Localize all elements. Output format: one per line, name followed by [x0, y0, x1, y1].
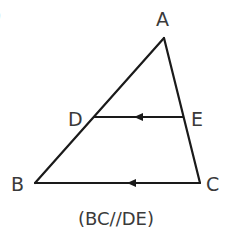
parallel-arrow-bc-icon [127, 179, 136, 187]
vertex-label-b: B [11, 173, 24, 195]
parallel-caption: (BC//DE) [78, 208, 154, 229]
segment-ab [35, 38, 164, 183]
triangle-diagram: ) A D E B C (BC//DE) [0, 0, 229, 237]
vertex-label-a: A [156, 8, 169, 30]
partial-label-top-left: ) [0, 4, 1, 26]
vertex-label-e: E [191, 108, 203, 130]
vertex-label-d: D [68, 108, 83, 130]
vertex-label-c: C [206, 173, 219, 195]
parallel-arrow-de-icon [134, 113, 143, 121]
